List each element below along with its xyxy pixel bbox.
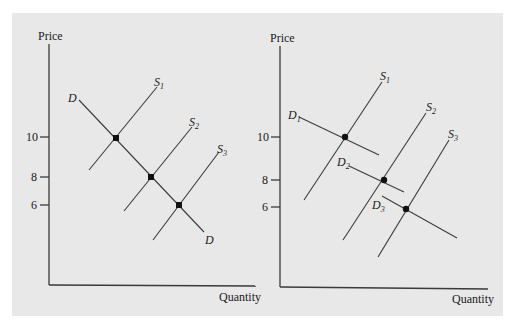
left-panel: Price Quantity 10 8 6 D D S1 S2 S3 — [26, 29, 261, 304]
supply-demand-figure: Price Quantity 10 8 6 D D S1 S2 S3 Price… — [0, 0, 519, 333]
left-tick-label-10: 10 — [26, 130, 38, 144]
right-supply-curve-s1 — [304, 82, 382, 200]
left-demand-curve-d — [79, 100, 204, 232]
left-label-d-bottom: D — [204, 233, 214, 247]
left-equilibrium-point-1 — [113, 135, 119, 141]
right-x-axis — [280, 287, 488, 289]
right-tick-label-10: 10 — [257, 130, 269, 144]
right-tick-label-8: 8 — [262, 173, 268, 187]
right-label-d3: D3 — [371, 198, 385, 214]
right-supply-curve-s2 — [343, 113, 426, 240]
left-tick-label-6: 6 — [31, 198, 37, 212]
right-label-s3: S3 — [448, 127, 458, 143]
left-supply-curve-s1 — [89, 87, 157, 170]
right-equilibrium-point-1 — [342, 134, 348, 140]
left-equilibrium-point-2 — [148, 174, 154, 180]
left-x-axis-label: Quantity — [219, 290, 261, 304]
left-equilibrium-point-3 — [176, 202, 182, 208]
left-y-axis-label: Price — [38, 29, 63, 43]
right-equilibrium-point-3 — [403, 206, 409, 212]
right-tick-label-6: 6 — [262, 200, 268, 214]
left-label-d-top: D — [67, 91, 77, 105]
left-label-s3: S3 — [217, 142, 227, 158]
left-label-s1: S1 — [154, 75, 164, 91]
right-label-s2: S2 — [426, 100, 436, 116]
left-label-s2: S2 — [189, 115, 199, 131]
right-demand-curve-d1 — [299, 117, 379, 155]
right-panel: Price Quantity 10 8 6 S1 S2 S3 D1 D2 D3 — [257, 31, 494, 306]
right-supply-curve-s3 — [378, 140, 449, 257]
right-label-d1: D1 — [287, 108, 301, 124]
right-equilibrium-point-2 — [381, 177, 387, 183]
right-y-axis-label: Price — [270, 31, 295, 45]
right-label-d2: D2 — [336, 155, 350, 171]
left-supply-curve-s3 — [153, 152, 219, 240]
left-x-axis — [49, 285, 256, 286]
left-supply-curve-s2 — [124, 127, 192, 211]
right-label-s1: S1 — [380, 69, 390, 85]
right-x-axis-label: Quantity — [452, 292, 494, 306]
left-tick-label-8: 8 — [31, 170, 37, 184]
